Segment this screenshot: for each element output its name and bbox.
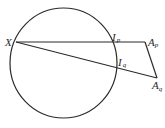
label-x: X — [4, 36, 13, 48]
label-ip: Ip — [111, 31, 121, 44]
label-aq: Aq — [151, 79, 163, 93]
geometry-diagram: X Ip Ap Iq Aq — [0, 0, 165, 128]
segment-x-aq — [16, 42, 157, 78]
circle — [10, 8, 117, 118]
label-iq: Iq — [117, 56, 127, 69]
label-ap: Ap — [147, 36, 159, 49]
